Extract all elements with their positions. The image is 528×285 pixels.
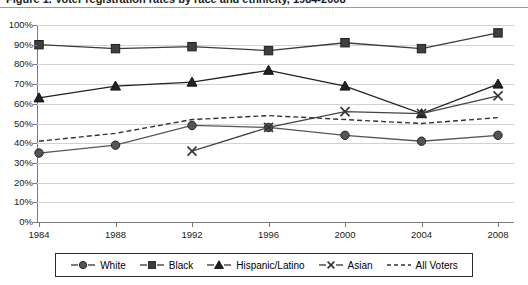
legend-item-black[interactable]: Black xyxy=(139,259,193,271)
x-marker-icon xyxy=(318,259,344,271)
legend-item-all-voters[interactable]: All Voters xyxy=(386,259,458,271)
y-axis-tick-mark xyxy=(33,104,37,105)
legend-item-asian[interactable]: Asian xyxy=(318,259,373,271)
circle-marker-icon xyxy=(70,259,96,271)
y-axis-tick-mark xyxy=(33,124,37,125)
legend-item-white[interactable]: White xyxy=(70,259,126,271)
y-axis-tick-mark xyxy=(33,202,37,203)
plot-series-layer xyxy=(0,0,528,285)
y-axis-tick-mark xyxy=(33,45,37,46)
y-axis-tick-mark xyxy=(33,163,37,164)
y-axis-tick-mark xyxy=(33,64,37,65)
legend-item-label: Asian xyxy=(348,260,373,271)
y-axis-tick-mark xyxy=(33,143,37,144)
legend-item-label: Hispanic/Latino xyxy=(236,260,304,271)
legend-item-label: All Voters xyxy=(416,260,458,271)
triangle-marker-icon xyxy=(206,259,232,271)
chart-figure: Figure 1. Voter registration rates by ra… xyxy=(0,0,528,285)
dashed-line-icon xyxy=(386,259,412,271)
y-axis-tick-mark xyxy=(33,25,37,26)
legend-item-label: Black xyxy=(169,260,193,271)
series-hispanic-latino xyxy=(34,65,503,117)
legend-item-label: White xyxy=(100,260,126,271)
chart-legend: WhiteBlackHispanic/LatinoAsianAll Voters xyxy=(55,253,473,277)
y-axis-tick-mark xyxy=(33,84,37,85)
legend-item-hispanic-latino[interactable]: Hispanic/Latino xyxy=(206,259,304,271)
square-marker-icon xyxy=(139,259,165,271)
y-axis-tick-mark xyxy=(33,183,37,184)
series-black xyxy=(35,29,502,55)
y-axis-tick-mark xyxy=(33,222,37,223)
